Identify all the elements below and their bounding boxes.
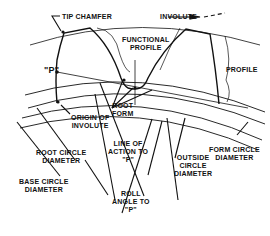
- roll-angle-label: ROLL ANGLE TO "P": [112, 190, 150, 214]
- functional-profile-line-2: PROFILE: [122, 44, 170, 52]
- root-form-label: ROOT FORM: [112, 102, 133, 118]
- form-circle-label: FORM CIRCLE DIAMETER: [209, 146, 260, 162]
- functional-profile-line-1: FUNCTIONAL: [122, 36, 170, 44]
- root-form-line-1: ROOT: [112, 102, 133, 110]
- functional-profile-label: FUNCTIONAL PROFILE: [122, 36, 170, 52]
- origin-line-2: INVOLUTE: [71, 122, 109, 130]
- base-circle-arc: [22, 106, 262, 140]
- form-line-2: DIAMETER: [209, 154, 260, 162]
- involute-label: INVOLUTE: [160, 13, 197, 21]
- loa-line-2: ACTION TO: [108, 148, 148, 156]
- base-line-1: BASE CIRCLE: [19, 178, 69, 186]
- origin-of-involute-label: ORIGIN OF INVOLUTE: [71, 114, 109, 130]
- outside-circle-label: OUTSIDE CIRCLE DIAMETER: [174, 154, 212, 178]
- root-circle-label: ROOT CIRCLE DIAMETER: [36, 149, 86, 165]
- form-line-1: FORM CIRCLE: [209, 146, 260, 154]
- roll-line-2: ANGLE TO: [112, 198, 150, 206]
- root-circle-line-1: ROOT CIRCLE: [36, 149, 86, 157]
- loa-line-1: LINE OF: [108, 140, 148, 148]
- tip-chamfer-label: TIP CHAMFER: [62, 13, 112, 21]
- loa-line-3: "P": [108, 156, 148, 164]
- line-of-action-label: LINE OF ACTION TO "P": [108, 140, 148, 164]
- point-p-label: "P": [44, 66, 59, 74]
- left-tooth: [56, 28, 128, 103]
- outside-line-1: OUTSIDE: [174, 154, 212, 162]
- origin-line-1: ORIGIN OF: [71, 114, 109, 122]
- root-circle-line-2: DIAMETER: [36, 157, 86, 165]
- root-form-line-2: FORM: [112, 110, 133, 118]
- roll-line-3: "P": [112, 206, 150, 214]
- profile-label: PROFILE: [226, 66, 258, 74]
- outside-line-3: DIAMETER: [174, 170, 212, 178]
- roll-line-1: ROLL: [112, 190, 150, 198]
- outside-line-2: CIRCLE: [174, 162, 212, 170]
- base-circle-label: BASE CIRCLE DIAMETER: [19, 178, 69, 194]
- base-line-2: DIAMETER: [19, 186, 69, 194]
